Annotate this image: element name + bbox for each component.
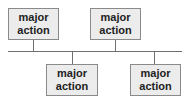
box-label-line2: action xyxy=(99,24,131,37)
action-box-1: major action xyxy=(8,8,59,40)
box-label-line2: action xyxy=(17,24,49,37)
box-label-line2: action xyxy=(139,80,171,93)
connector-2 xyxy=(115,40,116,51)
action-box-4: major action xyxy=(130,64,181,96)
connector-3 xyxy=(72,52,73,64)
connector-4 xyxy=(154,52,155,64)
box-label-line1: major xyxy=(141,67,171,80)
box-label-line2: action xyxy=(56,80,88,93)
action-box-2: major action xyxy=(90,8,141,40)
action-box-3: major action xyxy=(46,64,98,96)
box-label-line1: major xyxy=(57,67,87,80)
box-label-line1: major xyxy=(19,11,49,24)
connector-1 xyxy=(33,40,34,51)
timeline-axis xyxy=(8,51,182,52)
timeline-diagram: major action major action major action m… xyxy=(0,0,187,103)
box-label-line1: major xyxy=(101,11,131,24)
